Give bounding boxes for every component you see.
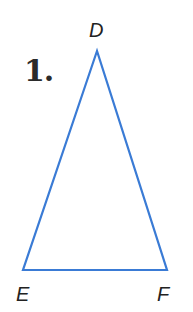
vertex-label-f: F (157, 284, 169, 304)
problem-number: 1. (24, 56, 53, 86)
vertex-label-e: E (16, 284, 29, 304)
vertex-label-d: D (89, 20, 103, 40)
figure-canvas: 1. D E F (0, 0, 193, 312)
triangle-svg (0, 0, 193, 312)
